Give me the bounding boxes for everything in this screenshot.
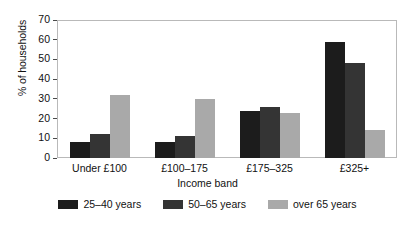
plot-area [57, 20, 397, 158]
y-axis-tick-label: 0 [44, 151, 50, 164]
legend-item[interactable]: 50–65 years [163, 198, 246, 210]
bar [280, 113, 300, 158]
bar [260, 107, 280, 158]
bar [70, 142, 90, 158]
bar [175, 136, 195, 158]
legend-swatch [163, 200, 183, 209]
x-axis-label: Under £100 [57, 161, 142, 175]
x-axis-label: £325+ [312, 161, 397, 175]
y-axis-tick-label: 50 [38, 52, 50, 65]
bar [155, 142, 175, 158]
x-axis-label: £175–325 [227, 161, 312, 175]
y-axis-tick-label: 20 [38, 112, 50, 125]
y-axis-tick-label: 40 [38, 72, 50, 85]
bar [110, 95, 130, 158]
legend-label: 25–40 years [83, 198, 141, 210]
y-axis-tick-label: 30 [38, 92, 50, 105]
bar [345, 63, 365, 158]
bar [365, 130, 385, 158]
bar-group [240, 20, 300, 158]
y-axis-tick-label: 70 [38, 13, 50, 26]
chart-legend: 25–40 years50–65 yearsover 65 years [0, 198, 415, 210]
x-axis-label: £100–175 [142, 161, 227, 175]
bar [240, 111, 260, 158]
bar-group [155, 20, 215, 158]
bar-group [325, 20, 385, 158]
bar [195, 99, 215, 158]
legend-swatch [58, 200, 78, 209]
y-axis-tick-label: 10 [38, 131, 50, 144]
legend-swatch [268, 200, 288, 209]
bar-chart-figure: % of households 010203040506070 Under £1… [0, 0, 415, 227]
legend-item[interactable]: 25–40 years [58, 198, 141, 210]
legend-label: 50–65 years [188, 198, 246, 210]
legend-label: over 65 years [293, 198, 357, 210]
y-axis-tick-label: 60 [38, 33, 50, 46]
bar [325, 42, 345, 158]
y-axis-title: % of households [16, 0, 28, 118]
bar [90, 134, 110, 158]
x-axis-title: Income band [0, 177, 415, 189]
legend-item[interactable]: over 65 years [268, 198, 357, 210]
bar-group [70, 20, 130, 158]
